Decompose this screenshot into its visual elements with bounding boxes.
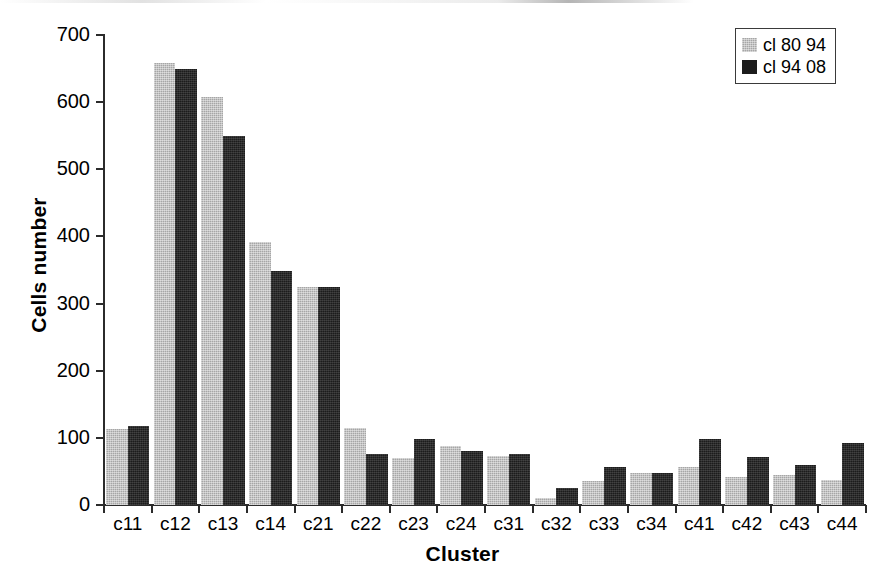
y-axis-tick [96, 370, 104, 372]
bar-c44-series-b [842, 443, 864, 505]
x-axis-tick [675, 505, 677, 513]
bar-c14-series-b [271, 271, 293, 505]
y-axis-tick-label: 600 [10, 91, 90, 111]
bar-c23-series-a [392, 458, 414, 505]
y-axis-tick [96, 303, 104, 305]
bar-c31-series-a [487, 456, 509, 505]
bar-c41-series-a [678, 467, 700, 505]
legend-entry-series-a: cl 80 94 [742, 34, 826, 56]
bar-c44-series-a [821, 480, 843, 505]
bar-c32-series-b [556, 488, 578, 505]
bar-c41-series-b [699, 439, 721, 505]
y-axis-tick [96, 168, 104, 170]
legend: cl 80 94 cl 94 08 [735, 28, 836, 84]
bar-c21-series-a [297, 287, 319, 505]
legend-swatch-icon-series-b [742, 60, 757, 74]
x-axis-tick [389, 505, 391, 513]
bar-c13-series-a [201, 97, 223, 505]
x-axis-tick [103, 505, 105, 513]
bar-c24-series-a [440, 446, 462, 505]
y-axis-tick [96, 235, 104, 237]
x-axis-tick [722, 505, 724, 513]
bar-chart: Cells number 0100200300400500600700 c11c… [0, 0, 889, 577]
x-axis-tick [532, 505, 534, 513]
bar-c23-series-b [414, 439, 436, 505]
legend-swatch-icon-series-a [742, 38, 757, 52]
scan-artifact [0, 0, 889, 3]
y-axis-tick-label: 400 [10, 225, 90, 245]
x-axis-tick [817, 505, 819, 513]
bar-c22-series-a [344, 428, 366, 505]
x-axis-tick [627, 505, 629, 513]
x-axis-tick [151, 505, 153, 513]
y-axis-tick [96, 437, 104, 439]
bar-c21-series-b [318, 287, 340, 505]
bar-c34-series-a [630, 473, 652, 505]
bar-c12-series-a [154, 63, 176, 505]
bar-c31-series-b [509, 454, 531, 505]
bar-c43-series-b [795, 465, 817, 505]
bar-c42-series-a [725, 477, 747, 505]
x-axis-tick [436, 505, 438, 513]
x-axis-tick [484, 505, 486, 513]
y-axis-tick-label: 500 [10, 158, 90, 178]
x-axis-tick [341, 505, 343, 513]
legend-label-series-a: cl 80 94 [763, 35, 826, 55]
y-axis-tick-label: 700 [10, 24, 90, 44]
y-axis-tick-label: 200 [10, 360, 90, 380]
y-axis-tick-label: 0 [10, 494, 90, 514]
bar-c32-series-a [535, 498, 557, 505]
bar-c34-series-b [652, 473, 674, 505]
bar-c14-series-a [249, 242, 271, 505]
x-axis-title: Cluster [0, 542, 889, 566]
x-axis-tick [770, 505, 772, 513]
bar-c43-series-a [773, 475, 795, 505]
bar-c24-series-b [461, 451, 483, 505]
bar-c33-series-b [604, 467, 626, 505]
bar-c33-series-a [582, 481, 604, 505]
bar-c12-series-b [175, 69, 197, 505]
bar-c11-series-a [106, 429, 128, 505]
x-axis-tick [865, 505, 867, 513]
x-axis-tick [198, 505, 200, 513]
y-axis-tick [96, 34, 104, 36]
x-axis-tick-label: c44 [812, 513, 872, 535]
x-axis-tick [579, 505, 581, 513]
plot-area [104, 35, 866, 505]
bar-c13-series-b [223, 136, 245, 505]
legend-label-series-b: cl 94 08 [763, 57, 826, 77]
y-axis-tick-label: 100 [10, 427, 90, 447]
bar-c42-series-b [747, 457, 769, 505]
x-axis-tick [246, 505, 248, 513]
bar-c11-series-b [128, 426, 150, 505]
y-axis-tick [96, 101, 104, 103]
legend-entry-series-b: cl 94 08 [742, 56, 826, 78]
y-axis-tick-label: 300 [10, 293, 90, 313]
x-axis-tick [294, 505, 296, 513]
x-axis-title-label: Cluster [426, 542, 500, 565]
bar-c22-series-b [366, 454, 388, 505]
